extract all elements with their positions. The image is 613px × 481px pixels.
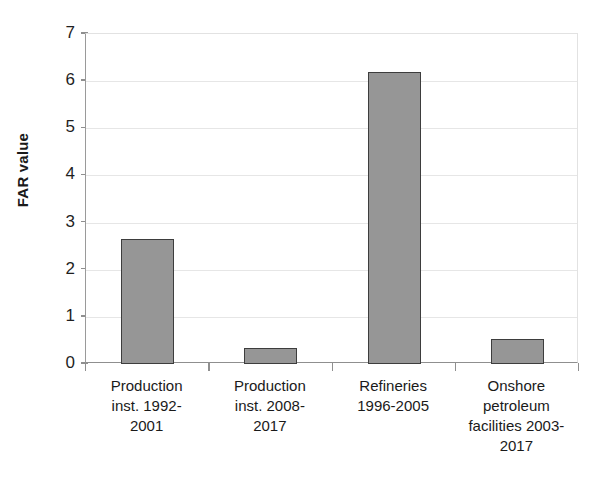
x-category-label-line: inst. 1992- — [85, 396, 208, 416]
x-tick-mark — [578, 363, 579, 371]
gridline — [86, 175, 577, 176]
far-value-bar-chart: FAR value 01234567 Productioninst. 1992-… — [0, 0, 613, 481]
y-tick-label: 0 — [19, 354, 75, 371]
x-category-label-line: 2017 — [455, 436, 578, 456]
x-category-label-line: Production — [208, 376, 331, 396]
x-tick-mark — [455, 363, 456, 371]
x-category-label-line: 2017 — [208, 416, 331, 436]
y-tick-label: 4 — [19, 165, 75, 182]
y-tick-label: 6 — [19, 71, 75, 88]
x-category-label-line: 1996-2005 — [332, 396, 455, 416]
bar — [121, 239, 174, 364]
x-category-label: Refineries1996-2005 — [332, 376, 455, 416]
gridline — [86, 81, 577, 82]
y-tick-label: 1 — [19, 307, 75, 324]
x-tick-mark — [85, 363, 86, 371]
x-category-label-line: facilities 2003- — [455, 416, 578, 436]
gridline — [86, 223, 577, 224]
x-category-label: Productioninst. 2008-2017 — [208, 376, 331, 436]
y-tick-label: 2 — [19, 260, 75, 277]
y-tick-label: 5 — [19, 118, 75, 135]
gridline — [86, 128, 577, 129]
bar — [491, 339, 544, 364]
x-category-label-line: 2001 — [85, 416, 208, 436]
x-tick-mark — [208, 363, 209, 371]
x-category-label: Productioninst. 1992-2001 — [85, 376, 208, 436]
x-category-label-line: petroleum — [455, 396, 578, 416]
bar — [244, 348, 297, 364]
x-category-label-line: Production — [85, 376, 208, 396]
plot-area — [85, 33, 578, 363]
x-category-label: Onshorepetroleumfacilities 2003-2017 — [455, 376, 578, 456]
x-category-label-line: Onshore — [455, 376, 578, 396]
bar — [368, 72, 421, 364]
y-tick-label: 3 — [19, 213, 75, 230]
x-category-label-line: Refineries — [332, 376, 455, 396]
y-tick-label: 7 — [19, 24, 75, 41]
x-tick-mark — [332, 363, 333, 371]
x-category-label-line: inst. 2008- — [208, 396, 331, 416]
